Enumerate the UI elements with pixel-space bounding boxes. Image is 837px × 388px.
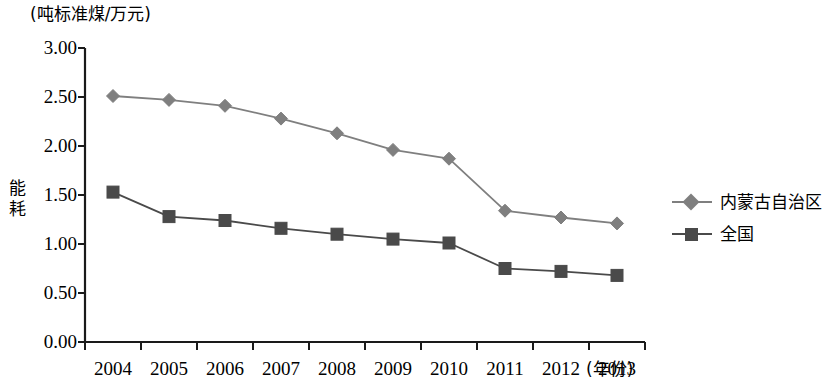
- x-axis-tick-label: 2012: [533, 358, 589, 380]
- legend-item-1[interactable]: 内蒙古自治区: [672, 186, 822, 218]
- data-point-marker: [331, 127, 344, 140]
- data-point-marker: [275, 112, 288, 125]
- y-axis-tick-label: 2.00: [19, 136, 77, 155]
- x-axis-tick-label: 2013: [589, 358, 645, 380]
- data-point-marker: [163, 93, 176, 106]
- data-point-marker: [219, 99, 232, 112]
- data-point-marker: [107, 90, 120, 103]
- data-point-marker: [387, 233, 399, 245]
- data-point-marker: [499, 263, 511, 275]
- data-point-marker: [219, 215, 231, 227]
- data-point-marker: [163, 211, 175, 223]
- data-point-marker: [387, 143, 400, 156]
- y-axis-tick-label: 1.50: [19, 185, 77, 204]
- x-axis-tick-label: 2007: [253, 358, 309, 380]
- y-axis-tick-label: 3.00: [19, 38, 77, 57]
- legend-square-icon: [672, 227, 712, 241]
- data-point-marker: [275, 222, 287, 234]
- legend-item-label: 全国: [720, 224, 754, 244]
- legend-diamond-icon: [672, 195, 712, 209]
- series-line-1: [113, 96, 617, 223]
- data-point-marker: [443, 237, 455, 249]
- x-axis-tick-label: 2006: [197, 358, 253, 380]
- x-axis-tick-label: 2008: [309, 358, 365, 380]
- chart-legend: 内蒙古自治区全国: [672, 186, 822, 250]
- data-point-marker: [107, 186, 119, 198]
- legend-item-2[interactable]: 全国: [672, 218, 822, 250]
- y-axis-tick-label: 2.50: [19, 87, 77, 106]
- x-axis-tick-label: 2004: [85, 358, 141, 380]
- data-point-marker: [611, 269, 623, 281]
- legend-item-label: 内蒙古自治区: [720, 192, 822, 212]
- energy-consumption-line-chart: (吨标准煤/万元) 能耗 (年份) 0.000.501.001.502.002.…: [0, 0, 837, 388]
- y-axis-tick-label: 0.00: [19, 332, 77, 351]
- y-axis-tick-label: 0.50: [19, 283, 77, 302]
- x-axis-tick-label: 2009: [365, 358, 421, 380]
- x-axis-tick-label: 2011: [477, 358, 533, 380]
- y-axis-tick-label: 1.00: [19, 234, 77, 253]
- x-axis-tick-label: 2005: [141, 358, 197, 380]
- data-point-marker: [555, 211, 568, 224]
- x-axis-tick-label: 2010: [421, 358, 477, 380]
- data-point-marker: [555, 265, 567, 277]
- data-point-marker: [611, 217, 624, 230]
- series-line-2: [113, 192, 617, 275]
- data-point-marker: [331, 228, 343, 240]
